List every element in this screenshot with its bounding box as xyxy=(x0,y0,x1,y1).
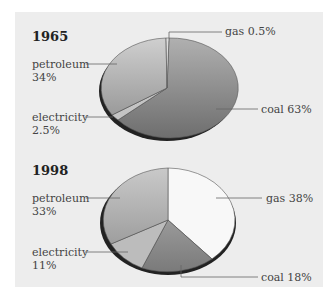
label-1965-electricity-pct: 2.5% xyxy=(32,124,88,137)
label-1965-coal: coal 63% xyxy=(261,103,312,116)
label-1998-petroleum-pct: 33% xyxy=(32,205,89,218)
label-1998-petroleum-name: petroleum xyxy=(32,192,89,205)
label-1965-petroleum-name: petroleum xyxy=(32,58,89,71)
label-1998-electricity-name: electricity xyxy=(32,246,88,259)
label-1998-petroleum: petroleum 33% xyxy=(32,192,89,218)
label-1998-electricity-pct: 11% xyxy=(32,259,88,272)
pie-1965 xyxy=(85,32,258,141)
chart-title-1998: 1998 xyxy=(32,163,68,178)
label-1998-gas: gas 38% xyxy=(266,192,313,205)
label-1965-petroleum-pct: 34% xyxy=(32,71,89,84)
pie-1998 xyxy=(85,168,262,277)
label-1965-petroleum: petroleum 34% xyxy=(32,58,89,84)
chart-title-1965: 1965 xyxy=(32,29,68,44)
label-1965-gas: gas 0.5% xyxy=(225,25,276,38)
label-1965-electricity-name: electricity xyxy=(32,111,88,124)
label-1998-electricity: electricity 11% xyxy=(32,246,88,272)
label-1965-electricity: electricity 2.5% xyxy=(32,111,88,137)
label-1998-coal: coal 18% xyxy=(261,271,312,284)
